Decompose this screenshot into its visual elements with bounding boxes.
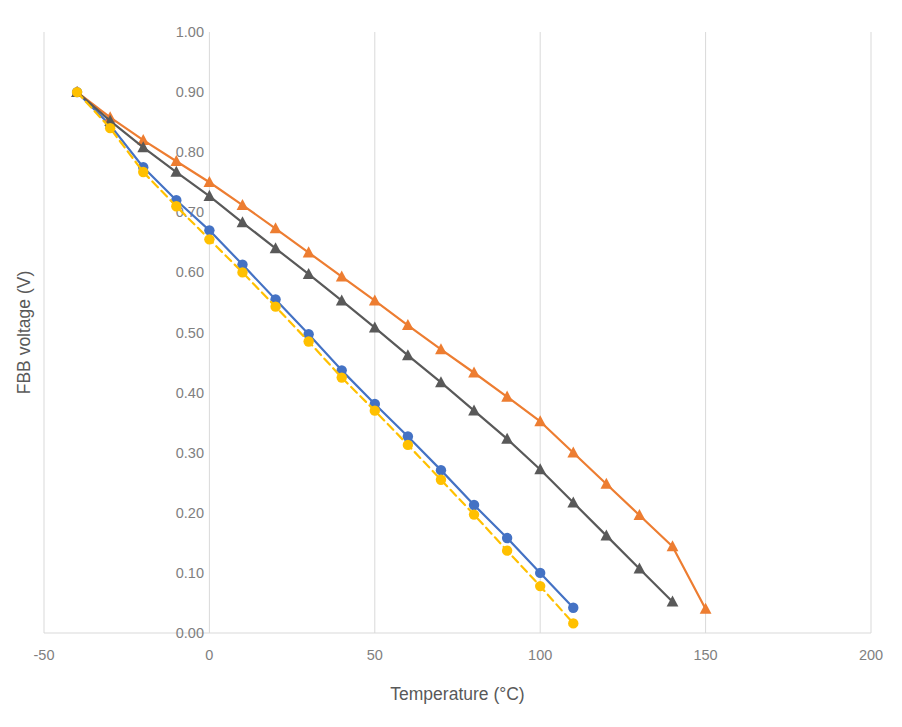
y-tick-labels: 0.000.100.200.300.400.500.600.700.800.90…: [176, 24, 204, 641]
data-point-marker: [204, 176, 216, 187]
data-point-marker: [568, 618, 578, 628]
y-tick-label: 0.90: [176, 84, 204, 100]
y-tick-label: 0.30: [176, 445, 204, 461]
data-point-marker: [369, 294, 381, 305]
y-tick-label: 0.60: [176, 264, 204, 280]
data-point-marker: [237, 199, 249, 210]
series-series_blue: [72, 87, 579, 613]
data-point-marker: [105, 123, 115, 133]
y-tick-label: 0.80: [176, 144, 204, 160]
x-tick-label: 200: [859, 647, 883, 663]
data-point-marker: [204, 234, 214, 244]
data-point-marker: [171, 201, 181, 211]
data-point-marker: [469, 500, 479, 510]
data-point-marker: [303, 246, 315, 257]
y-tick-label: 0.40: [176, 385, 204, 401]
data-point-marker: [468, 367, 480, 378]
x-tick-label: 150: [693, 647, 717, 663]
y-tick-label: 0.10: [176, 565, 204, 581]
data-point-marker: [502, 545, 512, 555]
data-point-marker: [204, 225, 214, 235]
line-chart: 0.000.100.200.300.400.500.600.700.800.90…: [0, 0, 902, 727]
data-point-marker: [502, 533, 512, 543]
x-tick-label: -50: [34, 647, 55, 663]
data-point-marker: [303, 336, 313, 346]
data-point-marker: [403, 440, 413, 450]
data-point-marker: [72, 87, 82, 97]
y-tick-label: 0.00: [176, 625, 204, 641]
chart-page: 0.000.100.200.300.400.500.600.700.800.90…: [0, 0, 902, 727]
y-axis-title: FBB voltage (V): [14, 271, 34, 395]
data-point-marker: [138, 167, 148, 177]
data-point-marker: [204, 190, 216, 201]
x-axis-title: Temperature (°C): [390, 684, 524, 704]
data-point-marker: [402, 319, 414, 330]
data-point-marker: [237, 267, 247, 277]
y-tick-label: 0.20: [176, 505, 204, 521]
gridlines: [44, 32, 871, 633]
x-tick-label: 0: [205, 647, 213, 663]
data-point-marker: [436, 465, 446, 475]
data-point-marker: [270, 222, 282, 233]
x-tick-label: 50: [367, 647, 383, 663]
y-tick-label: 1.00: [176, 24, 204, 40]
x-tick-labels: -50050100150200: [34, 647, 884, 663]
data-point-marker: [501, 391, 513, 402]
data-point-marker: [436, 475, 446, 485]
data-point-marker: [535, 581, 545, 591]
series-line: [77, 92, 573, 623]
y-tick-label: 0.50: [176, 325, 204, 341]
data-point-marker: [170, 166, 182, 177]
data-point-marker: [270, 301, 280, 311]
series-line: [77, 92, 573, 608]
data-point-marker: [534, 415, 546, 426]
data-point-marker: [469, 509, 479, 519]
data-point-marker: [568, 603, 578, 613]
x-tick-label: 100: [528, 647, 552, 663]
data-point-marker: [435, 343, 447, 354]
data-point-marker: [370, 405, 380, 415]
data-point-marker: [337, 372, 347, 382]
data-point-marker: [700, 603, 712, 614]
data-point-marker: [336, 270, 348, 281]
data-point-marker: [535, 568, 545, 578]
